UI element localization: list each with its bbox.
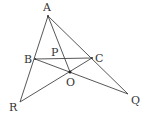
label-O: O (66, 76, 75, 89)
segment-BC (35, 58, 92, 59)
label-P: P (51, 46, 59, 59)
label-A: A (42, 1, 52, 14)
segment-AQ (48, 16, 128, 94)
label-Q: Q (131, 94, 140, 107)
point-O-dot (69, 71, 72, 74)
point-C-dot (91, 57, 93, 59)
point-A-dot (47, 15, 49, 17)
geometry-diagram: A B C P O R Q (0, 0, 146, 117)
label-C: C (95, 52, 103, 65)
segment-AO (48, 16, 70, 72)
label-R: R (9, 101, 18, 114)
label-B: B (24, 53, 32, 66)
point-B-dot (34, 58, 36, 60)
